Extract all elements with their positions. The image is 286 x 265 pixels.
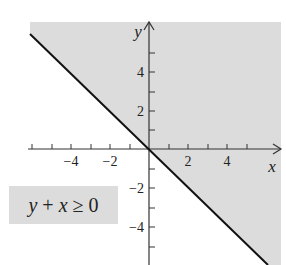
x-tick-label-2: 2 (185, 154, 192, 169)
x-axis-label: x (267, 157, 276, 176)
legend-relation: ≥ 0 (68, 194, 99, 217)
y-axis-label: y (132, 22, 142, 41)
x-tick-label-4: 4 (224, 154, 231, 169)
inequality-graph: −4 −2 2 4 4 2 −2 −4 x y (0, 0, 286, 265)
y-tick-label-neg4: −4 (129, 220, 144, 235)
legend-x: x (59, 194, 68, 217)
legend-plus: + (37, 194, 58, 217)
y-tick-label-neg2: −2 (129, 181, 144, 196)
y-tick-label-2: 2 (137, 104, 144, 119)
legend-y: y (28, 194, 37, 217)
y-tick-label-4: 4 (137, 65, 144, 80)
inequality-label: y + x ≥ 0 (9, 186, 118, 224)
x-tick-label-neg2: −2 (103, 154, 118, 169)
shaded-region (30, 22, 281, 265)
x-tick-label-neg4: −4 (64, 154, 79, 169)
